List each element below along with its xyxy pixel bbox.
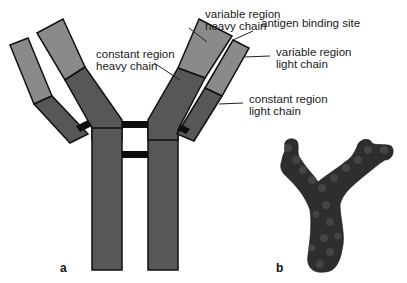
- left-heavy-stem: [92, 128, 122, 270]
- right-heavy-stem: [148, 128, 178, 270]
- label-constant-heavy: constant region heavy chain: [96, 48, 175, 72]
- panel-label-b: b: [276, 261, 283, 275]
- hinge-bond-upper: [122, 121, 148, 128]
- label-variable-light: variable region light chain: [276, 46, 351, 70]
- label-antigen-binding-site: antigen binding site: [261, 17, 360, 29]
- hinge-bond-lower: [122, 151, 148, 158]
- panel-label-a: a: [60, 261, 67, 275]
- label-constant-light: constant region light chain: [249, 93, 328, 117]
- antibody-diagram: [0, 0, 407, 283]
